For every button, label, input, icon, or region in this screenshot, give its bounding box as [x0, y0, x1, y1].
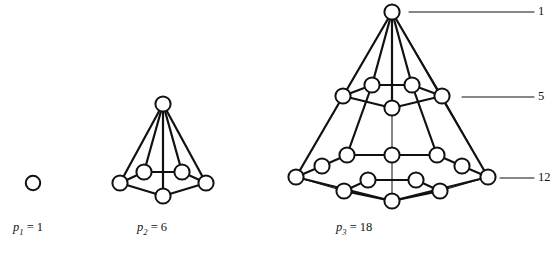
node-p3-m_bl: [364, 77, 379, 92]
node-p3-m_r: [434, 88, 449, 103]
node-p3-m_l: [335, 88, 350, 103]
caption-p1-equals: =: [27, 220, 34, 234]
leader-label-apex: 1: [538, 4, 544, 19]
caption-p3-equals: =: [350, 220, 357, 234]
node-p3-b_ir: [408, 172, 423, 187]
caption-p2-value: 6: [161, 220, 167, 234]
edge-p2-apex-br: [163, 104, 182, 172]
node-p3-m_br: [404, 77, 419, 92]
node-p3-b_ur: [454, 158, 469, 173]
node-p3-b_fr: [432, 183, 447, 198]
leader-label-middle-ring: 5: [538, 89, 544, 104]
node-p2-apex: [155, 96, 170, 111]
node-p3-b_fl: [336, 183, 351, 198]
node-p2-r: [198, 175, 213, 190]
node-p2-br: [174, 164, 189, 179]
node-p3-b_ul: [314, 158, 329, 173]
node-p3-b_bl: [339, 147, 354, 162]
edge-p3-m_br-b_br: [412, 85, 437, 155]
node-p3-m_f: [384, 100, 399, 115]
caption-p3-value: 18: [360, 220, 373, 234]
edge-p2-apex-bl: [144, 104, 163, 172]
node-p3-b_cl: [384, 147, 399, 162]
figure-canvas: [0, 0, 554, 255]
node-p3-b_il: [360, 172, 375, 187]
edge-p3-apex-m_br: [392, 12, 412, 85]
node-p2-l: [112, 175, 127, 190]
caption-p3-subscript: 3: [342, 227, 346, 237]
caption-p3: p3 = 18: [336, 220, 372, 237]
caption-p2: p2 = 6: [137, 220, 167, 237]
node-p2-bl: [136, 164, 151, 179]
node-p3-b_ll: [288, 169, 303, 184]
node-p3-b_f: [384, 193, 399, 208]
node-p2-f: [155, 188, 170, 203]
node-p1-a: [26, 176, 40, 190]
caption-p1-value: 1: [37, 220, 43, 234]
caption-p1: p1 = 1: [13, 220, 43, 237]
node-p3-b_br: [429, 147, 444, 162]
leader-label-bottom-ring: 12: [538, 170, 551, 185]
caption-p1-subscript: 1: [19, 227, 23, 237]
node-p3-apex: [384, 4, 399, 19]
caption-p2-equals: =: [151, 220, 158, 234]
leader-lines-layer: [409, 12, 534, 178]
pentagonal-pyramidal-numbers-figure: p1 = 1 p2 = 6 p3 = 18 1 5 12: [0, 0, 554, 255]
edge-p3-apex-m_bl: [372, 12, 392, 85]
nodes-layer: [26, 4, 496, 208]
caption-p2-subscript: 2: [143, 227, 147, 237]
node-p3-b_rr: [480, 169, 495, 184]
